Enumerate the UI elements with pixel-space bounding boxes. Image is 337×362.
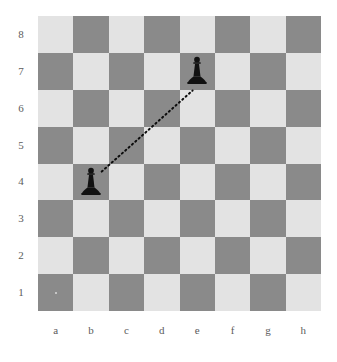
square-b5[interactable] <box>73 127 108 164</box>
square-f6[interactable] <box>215 90 250 127</box>
rank-label-2: 2 <box>10 237 32 274</box>
chessboard-diagram: 8 7 6 5 4 3 2 1 a b c d e f g h <box>0 0 337 362</box>
square-h5[interactable] <box>286 127 321 164</box>
square-h6[interactable] <box>286 90 321 127</box>
square-a6[interactable] <box>38 90 73 127</box>
square-c4[interactable] <box>109 164 144 201</box>
square-f8[interactable] <box>215 16 250 53</box>
file-label-b: b <box>73 320 108 340</box>
square-d4[interactable] <box>144 164 179 201</box>
square-g2[interactable] <box>250 237 285 274</box>
square-d7[interactable] <box>144 53 179 90</box>
square-h8[interactable] <box>286 16 321 53</box>
square-e8[interactable] <box>180 16 215 53</box>
chessboard[interactable] <box>38 16 321 311</box>
rank-label-column: 8 7 6 5 4 3 2 1 <box>10 16 32 311</box>
square-c3[interactable] <box>109 200 144 237</box>
square-g1[interactable] <box>250 274 285 311</box>
square-a5[interactable] <box>38 127 73 164</box>
square-f2[interactable] <box>215 237 250 274</box>
square-h7[interactable] <box>286 53 321 90</box>
file-label-h: h <box>286 320 321 340</box>
square-b3[interactable] <box>73 200 108 237</box>
square-g6[interactable] <box>250 90 285 127</box>
file-label-d: d <box>144 320 179 340</box>
pawn-black-icon-b4[interactable] <box>80 167 102 196</box>
square-c7[interactable] <box>109 53 144 90</box>
square-e1[interactable] <box>180 274 215 311</box>
square-e5[interactable] <box>180 127 215 164</box>
square-e2[interactable] <box>180 237 215 274</box>
square-b1[interactable] <box>73 274 108 311</box>
square-b6[interactable] <box>73 90 108 127</box>
file-label-a: a <box>38 320 73 340</box>
square-a7[interactable] <box>38 53 73 90</box>
square-g4[interactable] <box>250 164 285 201</box>
rank-label-6: 6 <box>10 90 32 127</box>
rank-label-4: 4 <box>10 164 32 201</box>
square-b8[interactable] <box>73 16 108 53</box>
chessboard-grid <box>38 16 321 311</box>
square-d5[interactable] <box>144 127 179 164</box>
square-a3[interactable] <box>38 200 73 237</box>
square-g8[interactable] <box>250 16 285 53</box>
square-c6[interactable] <box>109 90 144 127</box>
file-label-c: c <box>109 320 144 340</box>
square-f5[interactable] <box>215 127 250 164</box>
square-c2[interactable] <box>109 237 144 274</box>
square-c5[interactable] <box>109 127 144 164</box>
square-d6[interactable] <box>144 90 179 127</box>
rank-label-5: 5 <box>10 127 32 164</box>
square-c1[interactable] <box>109 274 144 311</box>
rank-label-7: 7 <box>10 53 32 90</box>
square-e3[interactable] <box>180 200 215 237</box>
square-h3[interactable] <box>286 200 321 237</box>
file-label-f: f <box>215 320 250 340</box>
square-c8[interactable] <box>109 16 144 53</box>
square-a4[interactable] <box>38 164 73 201</box>
square-h2[interactable] <box>286 237 321 274</box>
square-d2[interactable] <box>144 237 179 274</box>
square-h4[interactable] <box>286 164 321 201</box>
square-b2[interactable] <box>73 237 108 274</box>
square-e4[interactable] <box>180 164 215 201</box>
square-g3[interactable] <box>250 200 285 237</box>
square-f4[interactable] <box>215 164 250 201</box>
square-d8[interactable] <box>144 16 179 53</box>
square-a2[interactable] <box>38 237 73 274</box>
square-f7[interactable] <box>215 53 250 90</box>
square-d3[interactable] <box>144 200 179 237</box>
square-b7[interactable] <box>73 53 108 90</box>
square-g5[interactable] <box>250 127 285 164</box>
square-f3[interactable] <box>215 200 250 237</box>
square-e6[interactable] <box>180 90 215 127</box>
rank-label-1: 1 <box>10 274 32 311</box>
square-f1[interactable] <box>215 274 250 311</box>
file-label-e: e <box>180 320 215 340</box>
rank-label-3: 3 <box>10 200 32 237</box>
pawn-black-icon-e7[interactable] <box>186 56 208 85</box>
square-a1[interactable] <box>38 274 73 311</box>
rank-label-8: 8 <box>10 16 32 53</box>
square-g7[interactable] <box>250 53 285 90</box>
square-d1[interactable] <box>144 274 179 311</box>
file-label-g: g <box>250 320 285 340</box>
square-h1[interactable] <box>286 274 321 311</box>
file-label-row: a b c d e f g h <box>38 320 321 340</box>
square-a8[interactable] <box>38 16 73 53</box>
